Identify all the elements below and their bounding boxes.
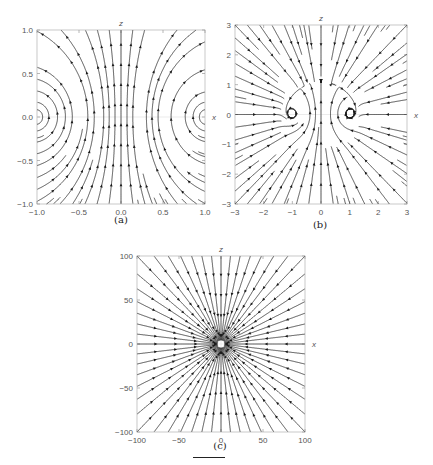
y-tick-label: 1.0 xyxy=(22,26,34,35)
streamplot-c: −100−50050100−100−50050100zx xyxy=(100,235,340,447)
y-tick-label: 1 xyxy=(227,81,232,90)
y-tick-label: 2 xyxy=(227,51,232,60)
x-tick-label: 2 xyxy=(376,208,381,215)
streamplot-b: −3−2−10123−3−2−10123zx xyxy=(210,0,433,215)
x-tick-label: 0 xyxy=(319,208,324,215)
y-tick-label: −50 xyxy=(119,384,133,393)
streamlines xyxy=(235,25,407,204)
y-tick-label: −100 xyxy=(115,428,134,437)
z-axis-label: z xyxy=(318,14,323,23)
caption-c: (c) xyxy=(200,440,240,451)
y-tick-label: 100 xyxy=(120,252,134,261)
y-tick-label: 50 xyxy=(124,296,133,305)
y-tick-label: −0.5 xyxy=(17,157,33,166)
x-tick-label: −1.0 xyxy=(29,208,45,215)
x-tick-label: −50 xyxy=(172,436,186,445)
y-tick-label: −1.0 xyxy=(17,200,33,209)
x-axis-label: x xyxy=(311,340,317,349)
x-tick-label: −1 xyxy=(288,208,298,215)
caption-a: (a) xyxy=(101,214,141,225)
caption-b: (b) xyxy=(300,219,340,230)
x-tick-label: 1 xyxy=(347,208,352,215)
footnote-rule xyxy=(193,457,225,458)
y-tick-label: 0.0 xyxy=(22,113,34,122)
x-tick-label: 100 xyxy=(298,436,312,445)
y-tick-label: 3 xyxy=(227,21,232,30)
z-axis-label: z xyxy=(118,19,123,28)
y-tick-label: −3 xyxy=(222,200,232,209)
x-tick-label: −100 xyxy=(128,436,147,445)
y-tick-label: 0 xyxy=(129,340,134,349)
y-tick-label: −2 xyxy=(222,170,232,179)
y-tick-label: −1 xyxy=(222,140,232,149)
y-tick-label: 0 xyxy=(227,111,232,120)
x-tick-label: −0.5 xyxy=(71,208,87,215)
z-axis-label: z xyxy=(218,245,223,254)
x-tick-label: −2 xyxy=(259,208,269,215)
x-tick-label: 0.5 xyxy=(157,208,169,215)
y-tick-label: 0.5 xyxy=(22,70,34,79)
x-tick-label: 3 xyxy=(405,208,410,215)
streamplot-a: −1.0−0.50.00.51.0−1.0−0.50.00.51.0zx xyxy=(0,0,220,215)
x-axis-label: x xyxy=(413,111,419,120)
x-tick-label: −3 xyxy=(230,208,240,215)
x-tick-label: 50 xyxy=(259,436,268,445)
